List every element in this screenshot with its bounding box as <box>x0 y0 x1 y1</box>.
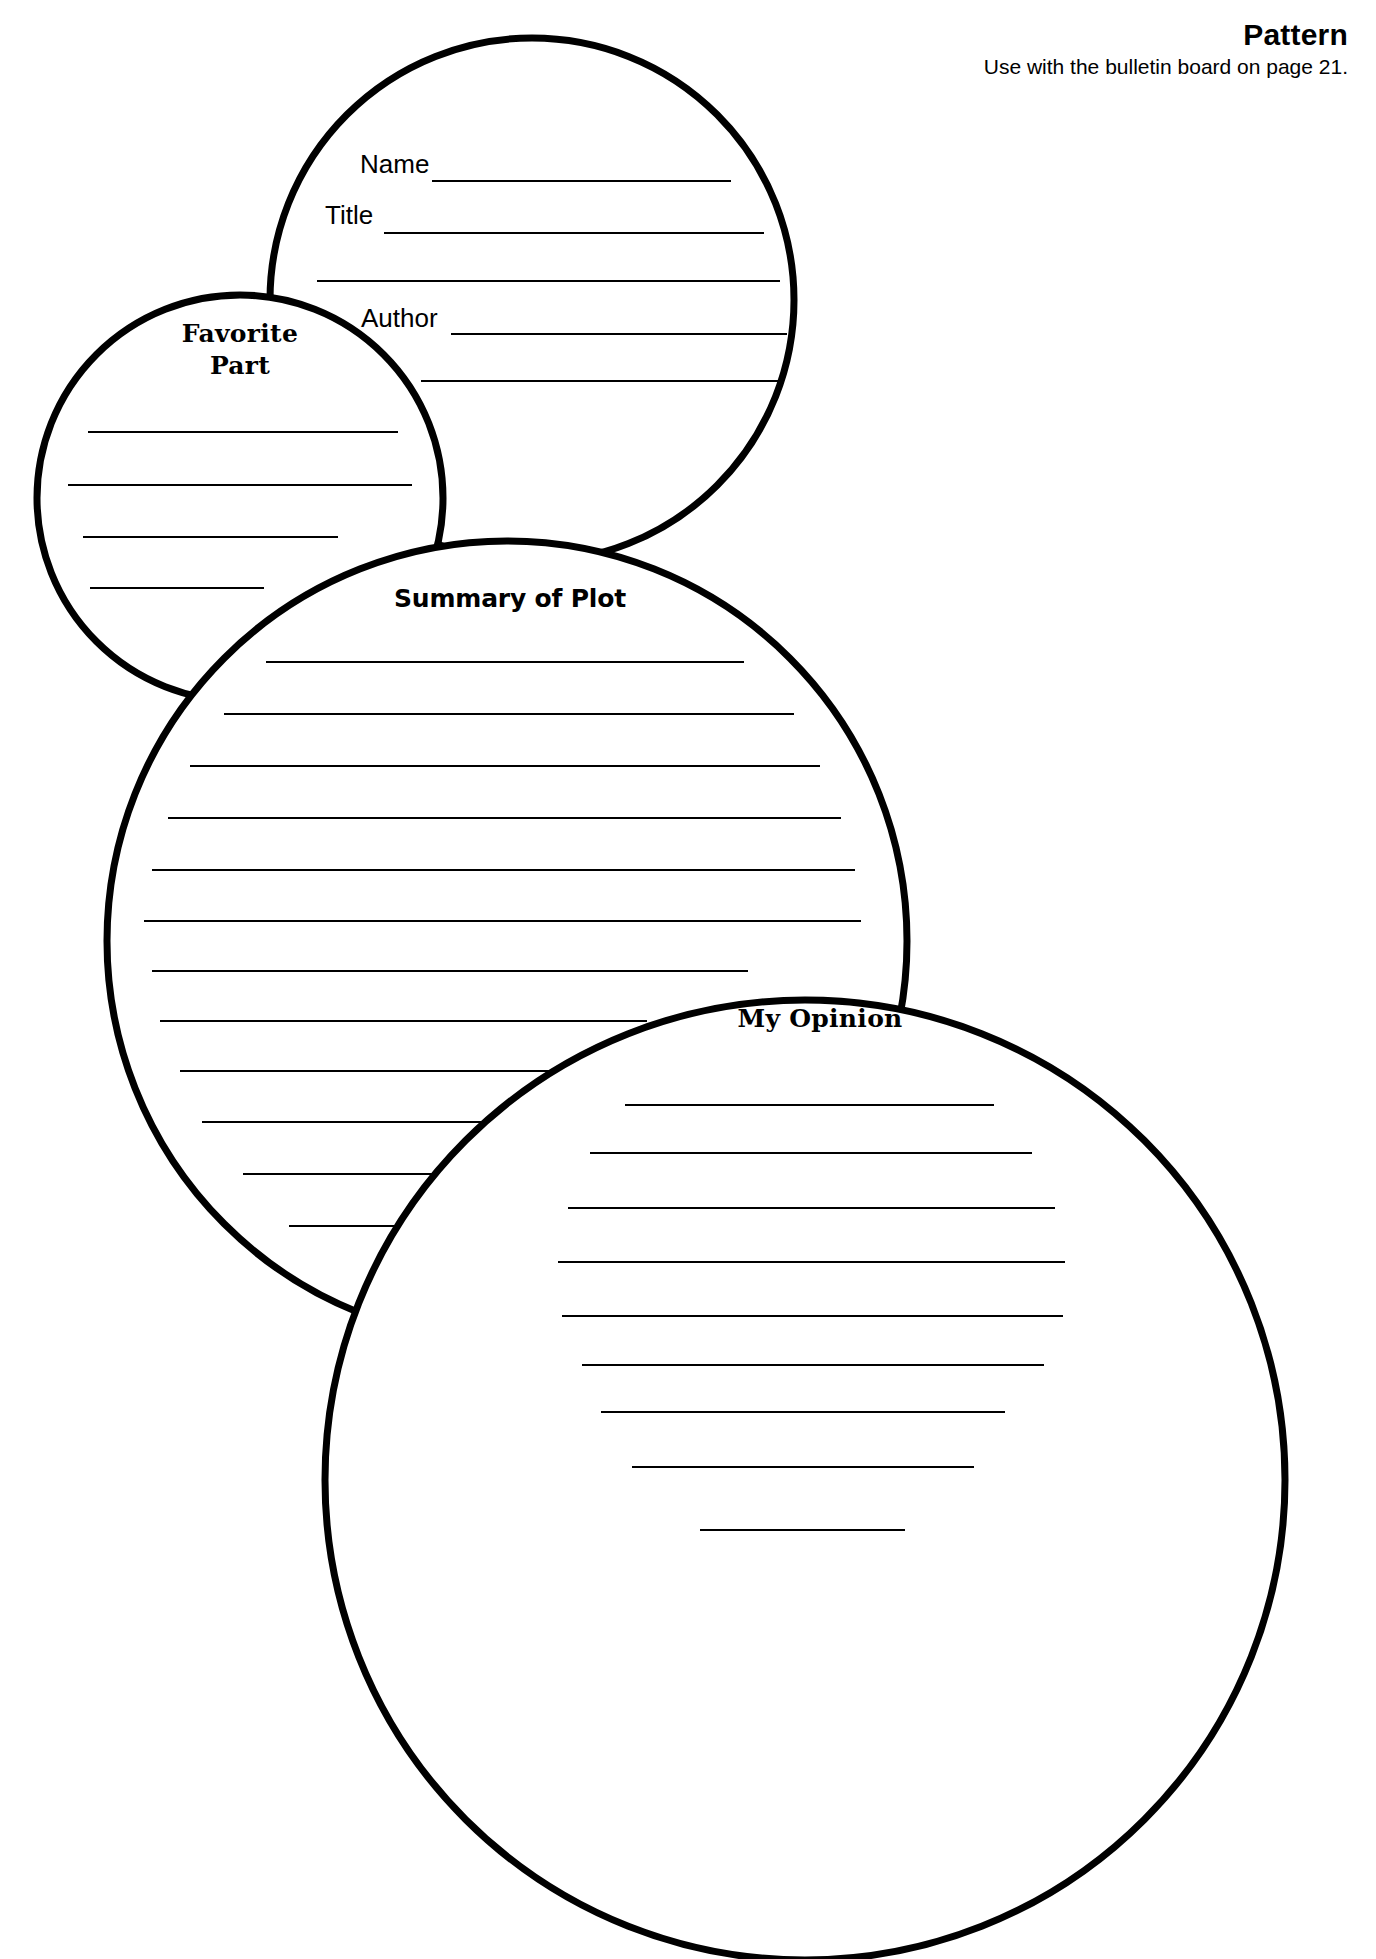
circles-artwork <box>0 0 1376 1959</box>
my-opinion-circle <box>325 1000 1285 1959</box>
circle-outlines <box>37 38 1285 1959</box>
worksheet-page: Pattern Use with the bulletin board on p… <box>0 0 1376 1959</box>
